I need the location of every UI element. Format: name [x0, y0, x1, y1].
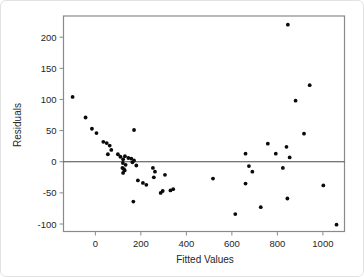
data-point [90, 127, 94, 131]
data-point [281, 166, 285, 170]
data-point [95, 131, 99, 135]
x-tick-label: 800 [269, 238, 285, 249]
data-point [211, 177, 215, 181]
data-point [244, 182, 248, 186]
y-tick-label: 50 [46, 125, 57, 136]
data-point [141, 181, 145, 185]
data-point [109, 148, 113, 152]
data-point [101, 140, 105, 144]
data-point [233, 212, 237, 216]
data-point [302, 132, 306, 136]
data-point [163, 173, 167, 177]
data-point [121, 157, 125, 161]
y-tick-label: 0 [51, 156, 56, 167]
data-point [308, 83, 312, 87]
y-tick-label: 100 [41, 94, 57, 105]
data-point [136, 179, 140, 183]
x-tick-label: 200 [133, 238, 149, 249]
data-point [132, 128, 136, 132]
data-point [247, 164, 251, 168]
x-tick-label: 0 [93, 238, 98, 249]
data-point [161, 189, 165, 193]
x-tick-label: 400 [178, 238, 194, 249]
data-point [259, 205, 263, 209]
data-point [108, 144, 112, 148]
data-point [153, 170, 157, 174]
data-point [286, 23, 290, 27]
data-point [134, 164, 138, 168]
data-point [106, 152, 110, 156]
data-point [285, 197, 289, 201]
data-point [321, 184, 325, 188]
scatter-plot: 02004006008001000200150100500-50-100 Fit… [1, 1, 363, 276]
data-point [250, 170, 254, 174]
data-point [131, 160, 135, 164]
data-point [144, 183, 148, 187]
data-point [71, 95, 75, 99]
plot-frame [64, 16, 345, 232]
scatter-figure: 02004006008001000200150100500-50-100 Fit… [0, 0, 364, 277]
data-point [152, 175, 156, 179]
data-point [274, 152, 278, 156]
y-tick-label: -100 [37, 219, 56, 230]
data-point [124, 163, 128, 167]
y-tick-label: 150 [41, 63, 57, 74]
data-point [244, 152, 248, 156]
data-point [294, 99, 298, 103]
data-point [84, 116, 88, 120]
plot-area: 02004006008001000200150100500-50-100 [37, 16, 344, 249]
data-point [335, 223, 339, 227]
data-point [105, 141, 109, 145]
y-axis-title: Residuals [12, 103, 23, 147]
x-tick-label: 600 [224, 238, 240, 249]
data-point [131, 200, 135, 204]
y-tick-label: 200 [41, 32, 57, 43]
data-point [151, 166, 155, 170]
data-point [171, 187, 175, 191]
data-point [285, 145, 289, 149]
y-tick-label: -50 [43, 187, 57, 198]
data-point [121, 171, 125, 175]
data-point [288, 155, 292, 159]
x-axis-title: Fitted Values [176, 254, 234, 265]
x-tick-label: 1000 [312, 238, 333, 249]
data-point [266, 142, 270, 146]
